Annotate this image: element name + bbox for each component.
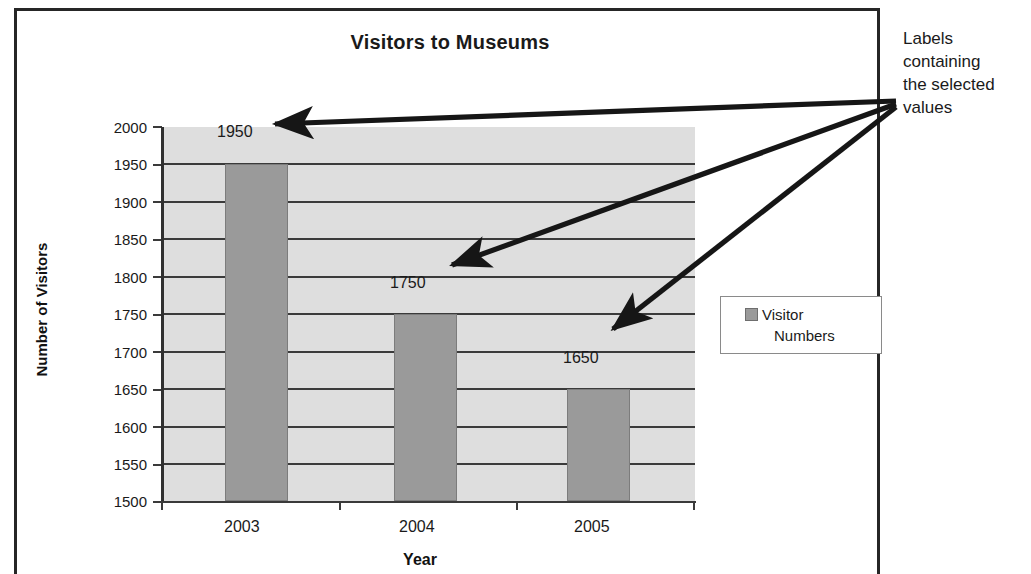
y-tick-label: 1650 <box>87 382 147 397</box>
bar-2005 <box>567 389 630 501</box>
data-label-2005: 1650 <box>563 349 599 367</box>
legend-entry-line2: Numbers <box>774 325 835 346</box>
x-tick-mark <box>339 501 341 510</box>
bar-2003 <box>225 164 288 501</box>
y-tick-label: 2000 <box>87 120 147 135</box>
y-axis-title: Number of Visitors <box>33 220 50 400</box>
plot-inner <box>164 127 695 501</box>
x-tick-mark <box>161 501 163 510</box>
legend-entry-line1: Visitor <box>762 306 803 323</box>
x-tick-label-2005: 2005 <box>574 518 610 536</box>
legend-entry: VisitorNumbers <box>745 304 835 346</box>
bar-2004 <box>394 314 457 501</box>
annotation-line-1: Labels <box>903 27 1031 50</box>
y-tick-label: 1850 <box>87 232 147 247</box>
chart-title: Visitors to Museums <box>17 31 883 54</box>
y-tick-label: 1900 <box>87 195 147 210</box>
x-tick-mark <box>516 501 518 510</box>
annotation-line-2: containing <box>903 50 1031 73</box>
y-tick-label: 1550 <box>87 457 147 472</box>
x-tick-mark <box>693 501 695 510</box>
legend-swatch-icon <box>745 308 758 321</box>
x-axis-title: Year <box>147 551 693 569</box>
x-tick-label-2004: 2004 <box>399 518 435 536</box>
y-tick-label: 1950 <box>87 157 147 172</box>
data-label-2003: 1950 <box>217 123 253 141</box>
legend-entry-label: VisitorNumbers <box>762 304 835 346</box>
data-label-2004: 1750 <box>390 274 426 292</box>
x-axis-line <box>157 501 696 503</box>
y-tick-label: 1750 <box>87 307 147 322</box>
chart-frame: Visitors to Museums Number of Visitors 2… <box>14 8 880 574</box>
y-tick-label: 1700 <box>87 345 147 360</box>
x-tick-label-2003: 2003 <box>224 518 260 536</box>
y-tick-label: 1800 <box>87 270 147 285</box>
chart-legend: VisitorNumbers <box>720 296 882 354</box>
annotation-line-3: the selected <box>903 73 1031 96</box>
y-tick-label: 1600 <box>87 420 147 435</box>
annotation-callout: Labels containing the selected values <box>903 27 1031 119</box>
plot-area <box>161 127 695 501</box>
annotation-line-4: values <box>903 96 1031 119</box>
y-tick-label: 1500 <box>87 494 147 509</box>
